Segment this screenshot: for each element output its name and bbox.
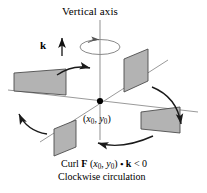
dot-product-icon: • [120, 159, 123, 169]
panel-upper-right [124, 49, 148, 92]
caption-k-symbol: k [126, 158, 132, 169]
origin-point-label: (x0, y0) [83, 114, 111, 126]
k-vector-label: k [40, 40, 46, 51]
caption-paren-close: ) [114, 158, 117, 169]
panel-left [14, 69, 66, 95]
curl-diagram-figure: Vertical axis k (x0, y0) Curl F (x0, y0)… [0, 0, 207, 193]
caption-F-symbol: F [81, 158, 87, 169]
circulation-arrow-left [19, 114, 47, 134]
caption-curl-word: Curl [61, 158, 79, 169]
vertical-axis-title: Vertical axis [62, 6, 118, 17]
panel-lower-left [54, 120, 76, 156]
point-paren-close: ) [107, 113, 110, 124]
axis-rotation-arrowhead [88, 40, 99, 43]
caption-circulation-sense: Clockwise circulation [58, 172, 145, 182]
panel-lower-right [141, 107, 180, 133]
caption-curl-expression: Curl F (x0, y0) • k < 0 [61, 159, 147, 171]
origin-point-dot [97, 98, 103, 104]
circulation-arrow-bottom [98, 136, 153, 145]
caption-relation: < 0 [134, 158, 147, 169]
